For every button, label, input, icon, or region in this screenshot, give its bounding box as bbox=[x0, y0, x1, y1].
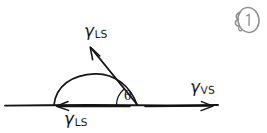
gamma-vs-arrow bbox=[145, 102, 213, 111]
doodle-digit-one bbox=[247, 14, 249, 25]
contact-angle-arc bbox=[117, 90, 124, 105]
gamma-subscript: LS bbox=[75, 116, 88, 128]
diagram-canvas bbox=[0, 0, 267, 133]
gamma-symbol: γ bbox=[84, 20, 95, 40]
label-gamma-ls-tangent: γLS bbox=[84, 22, 108, 41]
gamma-symbol: γ bbox=[190, 76, 201, 96]
label-gamma-ls-baseline: γLS bbox=[64, 110, 88, 128]
label-theta-angle: θ bbox=[124, 90, 132, 103]
gamma-symbol: γ bbox=[64, 108, 74, 128]
contact-angle-figure: γLS γLS γVS θ bbox=[0, 0, 267, 133]
label-gamma-vs: γVS bbox=[190, 78, 215, 97]
page-number-doodle bbox=[235, 6, 260, 34]
gamma-subscript: VS bbox=[200, 84, 215, 96]
gamma-subscript: LS bbox=[94, 28, 107, 40]
